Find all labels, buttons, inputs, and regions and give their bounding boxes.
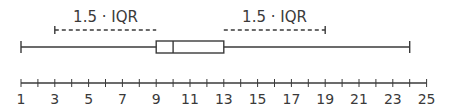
axis-tick-label: 7 xyxy=(118,91,127,107)
axis-tick-label: 13 xyxy=(215,91,233,107)
right-iqr-label: 1.5 · IQR xyxy=(242,8,307,26)
axis-tick-label: 17 xyxy=(282,91,300,107)
axis-tick-label: 19 xyxy=(316,91,334,107)
axis-tick-label: 9 xyxy=(152,91,161,107)
box-plot xyxy=(21,41,410,53)
axis-tick-label: 23 xyxy=(384,91,402,107)
iqr-annotations: 1.5 · IQR1.5 · IQR xyxy=(55,8,325,34)
axis-tick-label: 11 xyxy=(181,91,199,107)
axis-tick-label: 15 xyxy=(249,91,267,107)
axis-tick-label: 1 xyxy=(17,91,26,107)
axis-tick-label: 21 xyxy=(350,91,368,107)
box-plot-diagram: 1.5 · IQR1.5 · IQR 135791113151719212325 xyxy=(0,0,455,112)
number-axis: 135791113151719212325 xyxy=(17,79,436,107)
axis-tick-label: 3 xyxy=(50,91,59,107)
axis-tick-label: 25 xyxy=(418,91,436,107)
iqr-box xyxy=(156,41,224,53)
left-iqr-label: 1.5 · IQR xyxy=(73,8,138,26)
axis-tick-label: 5 xyxy=(84,91,93,107)
